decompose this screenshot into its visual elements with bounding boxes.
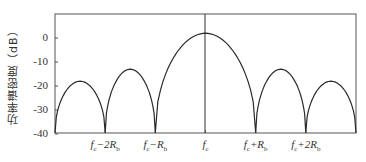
y-tick-label: -40 (24, 127, 48, 139)
x-tick-label: fc−2Rb (90, 138, 119, 153)
y-axis-label: 功率谱密度（dB） (6, 20, 20, 130)
y-tick-label: -20 (24, 79, 48, 91)
x-tick-label: fc−Rb (143, 138, 167, 153)
y-tick-label: -10 (24, 55, 48, 67)
x-tick-label: fc+2Rb (291, 138, 320, 153)
x-tick-label: fc+Rb (244, 138, 268, 153)
y-tick-label: -30 (24, 103, 48, 115)
x-tick-label: fc (202, 138, 208, 153)
y-tick-label: 0 (24, 31, 48, 43)
